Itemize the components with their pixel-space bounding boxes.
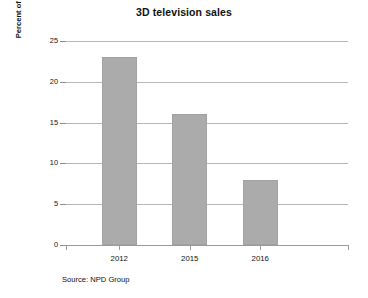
bar-chart-figure: 3D television sales Percent of overall T… xyxy=(0,0,368,298)
bar xyxy=(102,57,137,245)
bar xyxy=(172,114,207,245)
x-axis-tick-mark xyxy=(260,245,261,250)
x-axis-tick-mark xyxy=(348,245,349,250)
gridline xyxy=(66,41,348,42)
bar xyxy=(243,180,278,245)
y-axis-tick-label: 10 xyxy=(32,159,58,167)
y-axis-tick-label: 20 xyxy=(32,78,58,86)
x-axis-tick-label: 2016 xyxy=(230,254,290,264)
x-axis-tick-label: 2015 xyxy=(160,254,220,264)
plot-area xyxy=(66,41,348,245)
source-note: Source: NPD Group xyxy=(62,275,130,284)
x-axis-tick-mark xyxy=(66,245,67,250)
x-axis-tick-mark xyxy=(119,245,120,250)
y-axis-tick-label: 25 xyxy=(32,37,58,45)
chart-title: 3D television sales xyxy=(0,6,368,18)
x-axis-tick-mark xyxy=(190,245,191,250)
y-axis-tick-label: 5 xyxy=(32,200,58,208)
x-axis-tick-label: 2012 xyxy=(89,254,149,264)
y-axis-tick-label: 15 xyxy=(32,119,58,127)
y-axis-tick-label: 0 xyxy=(32,241,58,249)
y-axis-title: Percent of overall TV sales spending xyxy=(12,0,26,72)
y-axis-tick-labels: 0510152025 xyxy=(32,41,58,245)
x-axis-line xyxy=(66,245,348,246)
